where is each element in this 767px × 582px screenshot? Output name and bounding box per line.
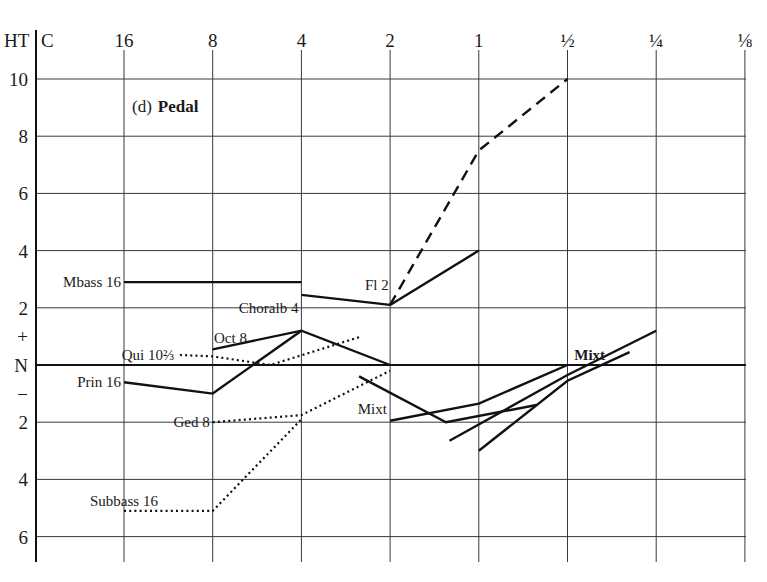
title-prefix: (d) [132,97,152,116]
x-tick-label: ½ [560,30,574,51]
title-main: Pedal [158,97,199,116]
series-label: Prin 16 [77,374,121,390]
y-tick-label: N [14,355,28,376]
series-labels: Mbass 16Choralb 4Fl 2Oct 8Prin 16Qui 10⅔… [63,274,605,509]
x-axis-label: C [41,30,54,51]
chart-title: (d)Pedal [132,97,199,116]
x-tick-label: 16 [115,30,134,51]
y-axis-label: HT [4,30,30,51]
y-tick-label: 4 [19,241,29,262]
series-label: Mixt [574,347,605,363]
series-label: Mixt [358,401,388,417]
y-tick-label: 6 [19,183,29,204]
series-line [479,352,630,451]
series-label: Oct 8 [214,330,247,346]
series-label: Subbass 16 [90,493,158,509]
y-tick-label: 4 [19,469,29,490]
y-tick-label: 2 [19,412,29,433]
y-tick-label: 2 [19,298,29,319]
series-line [301,295,390,305]
series-label: Ged 8 [173,414,209,430]
pedal-chart: 168421½¼⅛108642+N−246 Mbass 16Choralb 4F… [0,0,767,582]
x-tick-label: ¼ [649,30,663,51]
series-label: Fl 2 [365,277,389,293]
series-label: Qui 10⅔ [122,347,175,363]
series-line [390,251,479,305]
grid [36,50,746,562]
y-tick-label: − [17,384,28,405]
y-tick-label: 8 [19,126,29,147]
x-tick-label: 4 [297,30,307,51]
x-tick-label: 1 [474,30,484,51]
series-label: Mbass 16 [63,274,121,290]
series-line [180,336,362,365]
x-tick-label: ⅛ [738,30,753,51]
series-label: Choralb 4 [239,300,299,316]
x-tick-label: 2 [385,30,395,51]
x-tick-label: 8 [208,30,218,51]
y-tick-label: + [17,326,28,347]
y-tick-label: 10 [9,69,28,90]
series-line [450,331,657,441]
y-tick-label: 6 [19,527,29,548]
